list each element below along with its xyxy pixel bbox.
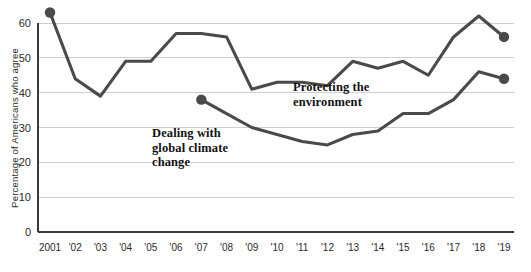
y-tick-label-60: 60	[19, 17, 31, 29]
y-axis-tick-labels: 0102030405060	[19, 17, 31, 238]
x-tick-label-2003: '03	[94, 242, 107, 253]
x-tick-label-2013: '13	[346, 242, 359, 253]
x-tick-label-2011: '11	[296, 242, 309, 253]
series-start-marker-1	[196, 94, 206, 104]
data-series-group	[50, 13, 504, 145]
chart-container: 0102030405060 2001'02'03'04'05'06'07'08'…	[0, 0, 531, 272]
y-tick-label-50: 50	[19, 52, 31, 64]
x-tick-label-2009: '09	[245, 242, 258, 253]
series-annotations-group: Dealing withglobal climatechangeProtecti…	[152, 80, 370, 169]
x-tick-label-2019: '19	[497, 242, 510, 253]
y-axis-title: Percentage of Americans who agree	[9, 48, 20, 208]
x-tick-label-2014: '14	[371, 242, 384, 253]
x-tick-label-2008: '08	[220, 242, 233, 253]
x-tick-label-2017: '17	[447, 242, 460, 253]
x-tick-label-2006: '06	[170, 242, 183, 253]
y-tick-label-30: 30	[19, 122, 31, 134]
x-tick-label-2007: '07	[195, 242, 208, 253]
series-line-0	[50, 13, 504, 97]
x-tick-label-2001: 2001	[39, 242, 62, 253]
x-tick-label-2010: '10	[270, 242, 283, 253]
environment-annotation: Protecting theenvironment	[293, 80, 370, 109]
x-axis-tick-labels: 2001'02'03'04'05'06'07'08'09'10'11'12'13…	[39, 242, 511, 253]
series-end-marker-0	[499, 32, 509, 42]
line-chart-svg: 0102030405060 2001'02'03'04'05'06'07'08'…	[0, 0, 531, 272]
x-tick-label-2015: '15	[397, 242, 410, 253]
x-tick-label-2018: '18	[472, 242, 485, 253]
series-end-marker-1	[499, 74, 509, 84]
x-tick-label-2016: '16	[422, 242, 435, 253]
y-tick-label-20: 20	[19, 156, 31, 168]
y-tick-label-0: 0	[25, 226, 31, 238]
gridlines-group	[38, 23, 514, 197]
x-tick-label-2005: '05	[144, 242, 157, 253]
series-start-marker-0	[45, 7, 55, 17]
x-tick-label-2012: '12	[321, 242, 334, 253]
y-tick-label-10: 10	[19, 191, 31, 203]
y-tick-label-40: 40	[19, 87, 31, 99]
x-tick-label-2004: '04	[119, 242, 132, 253]
x-tick-label-2002: '02	[69, 242, 82, 253]
